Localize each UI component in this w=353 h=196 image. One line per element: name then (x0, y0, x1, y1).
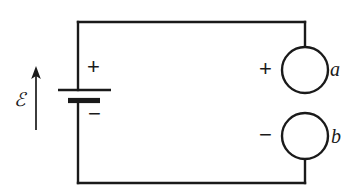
terminal-b-sign: − (259, 124, 272, 146)
terminal-b-circle[interactable] (282, 113, 328, 159)
battery-positive-sign: + (87, 56, 100, 78)
battery-negative-sign: − (88, 103, 101, 125)
terminal-a-sign: + (259, 58, 272, 80)
circuit-wire-path (78, 22, 305, 183)
circuit-diagram-figure: ℰ + − + a − b (0, 0, 353, 196)
terminal-b-label: b (331, 126, 341, 146)
emf-label: ℰ (14, 90, 26, 109)
circuit-schematic-svg (0, 0, 353, 196)
terminal-a-circle[interactable] (282, 47, 328, 93)
emf-direction-arrow (31, 66, 41, 130)
battery-symbol (58, 90, 111, 101)
terminal-a-label: a (330, 59, 340, 79)
